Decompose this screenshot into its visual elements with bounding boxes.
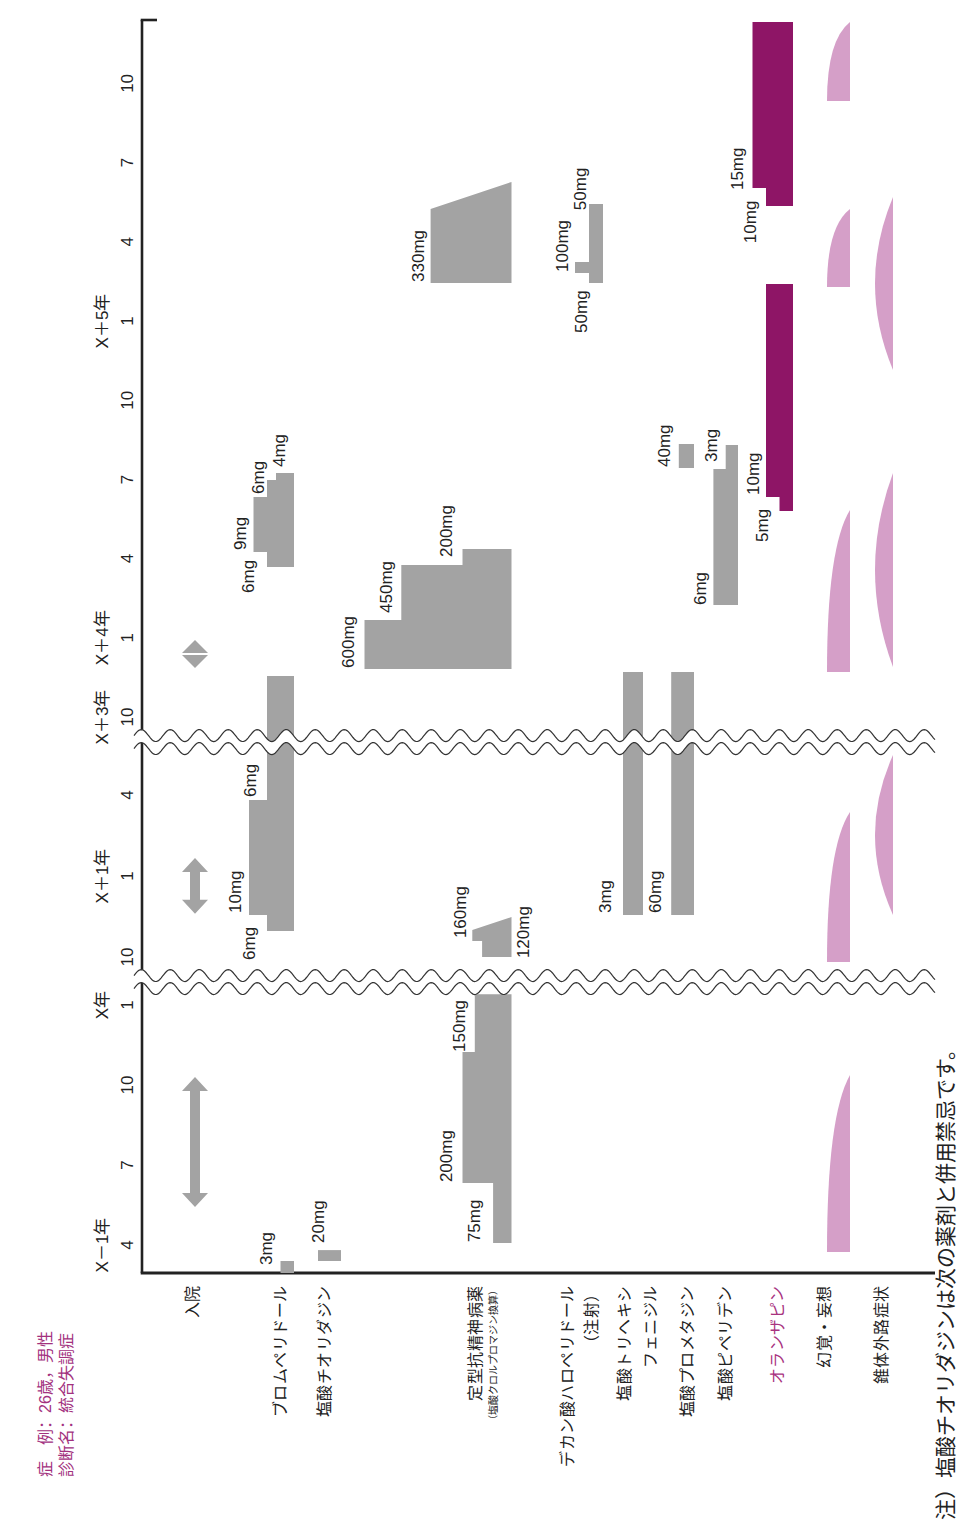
- dose-label: 6mg: [241, 764, 258, 797]
- month-tick-label: 10: [119, 1076, 136, 1095]
- dose-label: 75mg: [466, 1200, 483, 1243]
- year-tick-label: X＋3年: [94, 690, 111, 745]
- month-tick-label: 1: [119, 633, 136, 642]
- row-label-trihexyphenidyl-line1: 塩酸トリヘキシ: [617, 1285, 633, 1401]
- month-tick-label: 10: [119, 708, 136, 727]
- dose-label: 450mg: [378, 561, 395, 613]
- row-label-bromperidol: ブロムペリドール: [273, 1285, 289, 1417]
- dose-label: 600mg: [340, 616, 357, 668]
- row-label-biperiden: 塩酸ピペリデン: [718, 1285, 734, 1401]
- month-tick-label: 1: [119, 316, 136, 325]
- dose-label: 3mg: [596, 880, 613, 913]
- dose-label: 6mg: [240, 560, 257, 593]
- dose-label: 100mg: [554, 220, 571, 272]
- month-tick-label: 7: [119, 475, 136, 484]
- dose-label: 330mg: [409, 230, 426, 282]
- year-tick-label: X＋4年: [94, 610, 111, 665]
- dose-label: 5mg: [753, 509, 770, 542]
- month-tick-label: 4: [119, 1240, 136, 1249]
- month-tick-label: 7: [119, 158, 136, 167]
- clinical-course-chart: 3mg6mg10mg6mg6mg9mg6mg4mg20mg75mg200mg15…: [0, 0, 957, 1529]
- row-label-typical-antipsychotics: 定型抗精神病薬: [468, 1285, 484, 1401]
- dose-label: 40mg: [655, 424, 672, 467]
- row-label-extrapyramidal-symptoms: 錐体外路症状: [874, 1285, 890, 1384]
- month-tick-label: 4: [119, 554, 136, 563]
- diagnosis-info: 診断名：統合失調症: [59, 1333, 75, 1477]
- dose-label: 50mg: [572, 168, 589, 211]
- year-tick-label: X年: [94, 991, 111, 1019]
- dose-label: 3mg: [702, 429, 719, 462]
- dose-label: 20mg: [310, 1200, 327, 1243]
- month-tick-label: 10: [119, 948, 136, 967]
- dose-label: 10mg: [745, 452, 762, 495]
- case-info: 症 例：26歳，男性: [38, 1331, 54, 1477]
- dose-label: 4mg: [271, 434, 288, 467]
- dose-label: 9mg: [232, 517, 249, 550]
- dose-label: 150mg: [451, 1000, 468, 1052]
- month-tick-label: 7: [119, 1160, 136, 1169]
- dose-label: 160mg: [452, 886, 469, 938]
- dose-label: 6mg: [241, 927, 258, 960]
- dose-label: 10mg: [227, 870, 244, 913]
- month-tick-label: 10: [119, 74, 136, 93]
- row-label-haloperidol-decanoate: デカン酸ハロペリドール: [560, 1285, 576, 1467]
- year-tick-label: X－1年: [94, 1218, 111, 1273]
- month-tick-label: 4: [119, 790, 136, 799]
- month-tick-label: 10: [119, 391, 136, 410]
- row-label-promethazine: 塩酸プロメタジン: [680, 1285, 696, 1417]
- dose-label: 6mg: [691, 572, 708, 605]
- dose-label: 6mg: [250, 461, 267, 494]
- dose-label: 15mg: [729, 148, 746, 191]
- dose-label: 3mg: [258, 1232, 275, 1265]
- row-sublabel-cp-equivalent: （塩酸クロルプロマジン換算）: [489, 1285, 499, 1425]
- row-label-trihexyphenidyl-line2: フェニジル: [643, 1285, 659, 1368]
- month-tick-label: 1: [119, 871, 136, 880]
- month-tick-label: 4: [119, 237, 136, 246]
- month-tick-label: 1: [119, 1000, 136, 1009]
- dose-label: 50mg: [572, 290, 589, 333]
- row-label-hallucination-delusion: 幻覚・妄想: [817, 1285, 833, 1368]
- dose-label: 60mg: [646, 870, 663, 913]
- dose-label: 200mg: [438, 1130, 455, 1182]
- row-sublabel-injection: （注射）: [584, 1285, 600, 1351]
- dose-label: 200mg: [438, 505, 455, 557]
- row-label-thioridazine: 塩酸チオリダジン: [317, 1285, 333, 1417]
- dose-label: 120mg: [515, 906, 532, 958]
- footnote: 注）塩酸チオリダジンは次の薬剤と併用禁忌です。: [935, 1039, 956, 1520]
- dose-label: 10mg: [742, 201, 759, 244]
- row-label-olanzapine: オランザピン: [770, 1285, 786, 1384]
- row-label-admission: 入院: [185, 1285, 201, 1318]
- year-tick-label: X＋1年: [94, 849, 111, 904]
- year-tick-label: X＋5年: [94, 294, 111, 349]
